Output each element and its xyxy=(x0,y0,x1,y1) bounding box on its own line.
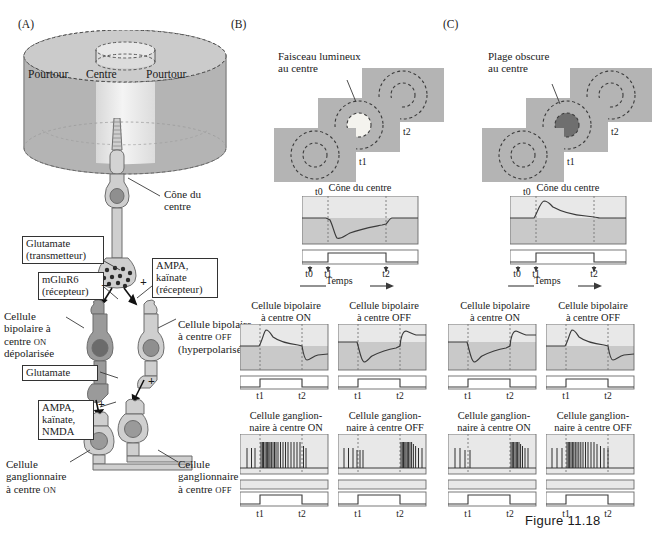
panel-c-cone-tick-t0: t0 xyxy=(509,268,525,279)
receptive-field-center-label: Centre xyxy=(86,68,117,81)
panel-b-ganglion-on-tick-t1: t1 xyxy=(252,508,268,519)
panel-b-bipolar-off-title: Cellule bipolaire à centre OFF xyxy=(336,300,432,324)
panel-c-bipolar-off-title-line1: Cellule bipolaire xyxy=(544,300,642,312)
panel-a-letter: (A) xyxy=(18,18,34,30)
panel-b-bipolar-off-tick-t1: t1 xyxy=(350,390,366,401)
panel-b-frame-label-t2: t2 xyxy=(403,126,411,137)
panel-b-letter: (B) xyxy=(231,18,246,30)
sign-plus-label-3: + xyxy=(148,375,155,388)
ampa-kainate-nmda-callout: AMPA, kaïnate, NMDA xyxy=(38,400,94,440)
panel-b-ganglion-on-spike-plot xyxy=(240,434,332,514)
cone-label: Cône du centre xyxy=(164,188,201,213)
panel-c-cone-trace-plot xyxy=(510,196,640,274)
panel-c-ganglion-on-title-line2: naire à centre ON xyxy=(444,422,544,434)
receptive-field-surround-left-label: Pourtour xyxy=(28,68,68,81)
glutamate-transmitter-callout: Glutamate (transmetteur) xyxy=(22,236,104,264)
glutamate-second-callout: Glutamate xyxy=(22,365,98,381)
panel-b-cone-tick-t0: t0 xyxy=(301,268,317,279)
panel-c-ganglion-off-title: Cellule ganglion- naire à centre OFF xyxy=(542,410,644,434)
panel-b-cone-title: Cône du centre xyxy=(290,182,430,194)
panel-c-ganglion-on-spike-plot xyxy=(448,434,540,514)
ampa-nmda-line1: AMPA, xyxy=(42,402,90,414)
panel-c-bipolar-off-tick-t1: t1 xyxy=(558,390,574,401)
panel-c-bipolar-on-title-line1: Cellule bipolaire xyxy=(446,300,544,312)
panel-c-letter: (C) xyxy=(443,18,458,30)
panel-c-ganglion-on-title: Cellule ganglion- naire à centre ON xyxy=(444,410,544,434)
bipolar-on-line3: centre ON xyxy=(4,335,66,348)
bipolar-on-line2: bipolaire à xyxy=(4,322,66,334)
panel-c-bipolar-on-tick-t1: t1 xyxy=(460,390,476,401)
panel-b-time-axis-label: Temps xyxy=(326,275,353,286)
ampa-kainate-receptor-callout: AMPA, kaïnate (récepteur) xyxy=(152,258,218,298)
panel-b-ganglion-on-title: Cellule ganglion- naire à centre ON xyxy=(236,410,336,434)
glutamate-transmitter-line2: (transmetteur) xyxy=(26,250,100,262)
panel-c-bipolar-off-title: Cellule bipolaire à centre OFF xyxy=(544,300,642,324)
glutamate-transmitter-line1: Glutamate xyxy=(26,238,100,250)
panel-b-ganglion-on-title-line1: Cellule ganglion- xyxy=(236,410,336,422)
ganglion-on-line3: à centre ON xyxy=(6,483,82,496)
panel-b-cone-tick-t2: t2 xyxy=(378,268,394,279)
panel-c-bipolar-off-tick-t2: t2 xyxy=(600,390,616,401)
panel-c-ganglion-on-title-line1: Cellule ganglion- xyxy=(444,410,544,422)
ampa-kainate-line2: kaïnate xyxy=(156,272,214,284)
panel-b-bipolar-off-plot xyxy=(338,324,430,396)
ampa-kainate-line3: (récepteur) xyxy=(156,284,214,296)
panel-b-ganglion-off-title-line2: naire à centre OFF xyxy=(334,422,436,434)
panel-b-ganglion-off-title: Cellule ganglion- naire à centre OFF xyxy=(334,410,436,434)
panel-c-frame-label-t1: t1 xyxy=(567,156,575,167)
panel-b-ganglion-off-spike-plot xyxy=(338,434,430,514)
panel-b-bipolar-on-title: Cellule bipolaire à centre ON xyxy=(238,300,334,324)
ampa-nmda-line3: NMDA xyxy=(42,426,90,438)
panel-c-cone-title: Cône du centre xyxy=(498,182,638,194)
panel-b-frame-label-t1: t1 xyxy=(359,156,367,167)
panel-b-bipolar-on-tick-t2: t2 xyxy=(294,390,310,401)
glutamate2-line1: Glutamate xyxy=(26,367,94,379)
panel-c-bipolar-off-plot xyxy=(546,324,638,396)
panel-c-ganglion-off-title-line2: naire à centre OFF xyxy=(542,422,644,434)
panel-b-ganglion-off-tick-t1: t1 xyxy=(350,508,366,519)
sign-minus-label: – xyxy=(102,277,109,292)
mglur6-line1: mGluR6 xyxy=(42,274,100,286)
panel-c-ganglion-off-tick-t2: t2 xyxy=(600,508,616,519)
panel-c-ganglion-on-tick-t1: t1 xyxy=(460,508,476,519)
panel-c-bipolar-on-title-line2: à centre ON xyxy=(446,312,544,324)
panel-c-ganglion-off-spike-plot xyxy=(546,434,638,514)
panel-b-bipolar-off-title-line1: Cellule bipolaire xyxy=(336,300,432,312)
panel-c-bipolar-on-tick-t2: t2 xyxy=(502,390,518,401)
panel-b-bipolar-on-plot xyxy=(240,324,332,396)
sign-plus-label-2: + xyxy=(98,398,105,411)
panel-c-ganglion-on-tick-t2: t2 xyxy=(502,508,518,519)
panel-c-cone-tick-t2: t2 xyxy=(586,268,602,279)
figure-caption: Figure 11.18 xyxy=(525,513,601,528)
mglur6-receptor-callout: mGluR6 (récepteur) xyxy=(38,272,104,300)
panel-b-bipolar-off-tick-t2: t2 xyxy=(392,390,408,401)
sign-plus-label: + xyxy=(140,276,147,289)
bipolar-on-line4: dépolarisée xyxy=(4,347,66,359)
panel-c-frame-label-t2: t2 xyxy=(611,126,619,137)
panel-b-bipolar-on-tick-t1: t1 xyxy=(252,390,268,401)
bipolar-on-label: Cellule bipolaire à centre ON dépolarisé… xyxy=(4,310,66,360)
ampa-kainate-line1: AMPA, xyxy=(156,260,214,272)
panel-b-bipolar-on-title-line1: Cellule bipolaire xyxy=(238,300,334,312)
ganglion-on-line2: ganglionnaire xyxy=(6,470,82,482)
panel-b-ganglion-off-tick-t2: t2 xyxy=(392,508,408,519)
panel-c-bipolar-off-title-line2: à centre OFF xyxy=(544,312,642,324)
ampa-nmda-line2: kaïnate, xyxy=(42,414,90,426)
panel-c-bipolar-on-title: Cellule bipolaire à centre ON xyxy=(446,300,544,324)
panel-b-ganglion-on-tick-t2: t2 xyxy=(294,508,310,519)
panel-c-ganglion-off-title-line1: Cellule ganglion- xyxy=(542,410,644,422)
panel-c-bipolar-on-plot xyxy=(448,324,540,396)
ganglion-on-label: Cellule ganglionnaire à centre ON xyxy=(6,458,82,495)
panel-b-cone-trace-plot xyxy=(302,196,432,274)
mglur6-line2: (récepteur) xyxy=(42,286,100,298)
bipolar-on-line1: Cellule xyxy=(4,310,66,322)
cone-label-line1: Cône du centre xyxy=(164,188,201,212)
ganglion-on-line1: Cellule xyxy=(6,458,82,470)
panel-b-bipolar-on-title-line2: à centre ON xyxy=(238,312,334,324)
receptive-field-surround-right-label: Pourtour xyxy=(146,68,186,81)
panel-b-ganglion-off-title-line1: Cellule ganglion- xyxy=(334,410,436,422)
panel-b-bipolar-off-title-line2: à centre OFF xyxy=(336,312,432,324)
panel-b-ganglion-on-title-line2: naire à centre ON xyxy=(236,422,336,434)
panel-c-time-axis-label: Temps xyxy=(534,275,561,286)
